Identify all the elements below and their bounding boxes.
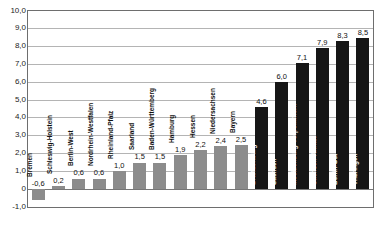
bar-category-label: Bayern — [229, 111, 237, 133]
y-axis-tick-label: 9,0 — [0, 23, 26, 32]
bar-value-label: 7,1 — [297, 53, 307, 62]
y-axis-tick-label: 7,0 — [0, 59, 26, 68]
bar-value-label: 8,5 — [358, 28, 368, 37]
bar-value-label: 0,2 — [53, 176, 63, 185]
bar-value-label: 6,0 — [276, 72, 286, 81]
bar-west — [153, 163, 166, 190]
bar-west — [52, 186, 65, 190]
bar-value-label: 2,5 — [236, 135, 246, 144]
bar-west — [133, 163, 146, 190]
bar-chart: 10,09,08,07,06,05,04,03,02,01,00-1,0 -0,… — [0, 0, 378, 228]
y-axis-tick-label: 4,0 — [0, 112, 26, 121]
bar-category-label: Bremen — [26, 153, 34, 177]
y-axis-tick-label: 3,0 — [0, 130, 26, 139]
bar-category-label: Rheinland-Pfalz — [107, 111, 115, 159]
y-axis-tick-label: 0 — [0, 184, 26, 193]
plot-area: -0,6Bremen0,2Schleswig-Holstein0,6Berlin… — [27, 10, 374, 208]
bar-value-label: 4,6 — [256, 97, 266, 106]
bar-west — [214, 146, 227, 189]
bar-value-label: 0,6 — [74, 168, 84, 177]
bar-value-label: 8,3 — [337, 31, 347, 40]
y-axis-tick-label: 10,0 — [0, 6, 26, 15]
bar-category-label: Berlin-Ost — [331, 154, 339, 185]
bar-category-label: Hessen — [189, 115, 197, 138]
y-axis-tick-label: 5,0 — [0, 95, 26, 104]
y-axis-tick-label: 6,0 — [0, 77, 26, 86]
bar-value-label: 7,9 — [317, 38, 327, 47]
bar-category-label: Mecklenburg-Vorpommern — [290, 104, 298, 185]
bar-category-label: Niedersachsen — [209, 89, 217, 135]
y-axis-tick-label: 2,0 — [0, 148, 26, 157]
bar-west — [194, 150, 207, 189]
bar-west — [174, 155, 187, 189]
bar-value-label: 1,5 — [134, 152, 144, 161]
bar-category-label: Nordrhein-Westfalen — [87, 103, 95, 166]
y-axis-tick-label: 1,0 — [0, 166, 26, 175]
bar-category-label: Thüringen — [351, 154, 359, 185]
bar-category-label: Baden-Württemberg — [148, 89, 156, 151]
bar-value-label: 1,5 — [155, 152, 165, 161]
bar-category-label: Hamburg — [168, 115, 176, 143]
bar-value-label: 1,9 — [175, 145, 185, 154]
bar-category-label: Berlin-West — [67, 131, 75, 167]
bar-value-label: 2,2 — [195, 140, 205, 149]
bar-category-label: Brandenburg — [249, 145, 257, 185]
bar-value-label: 2,4 — [216, 136, 226, 145]
bar-west — [93, 179, 106, 190]
bar-category-label: Schleswig-Holstein — [46, 115, 54, 174]
bar-value-label: 0,6 — [94, 168, 104, 177]
gridline — [28, 28, 373, 29]
bar-west — [235, 145, 248, 190]
bar-value-label: 1,0 — [114, 161, 124, 170]
y-axis-tick-label: 8,0 — [0, 41, 26, 50]
bar-category-label: Sachsen-Anhalt — [310, 136, 318, 185]
bar-value-label: -0,6 — [32, 179, 45, 188]
bar-category-label: Sachsen — [270, 159, 278, 185]
bar-west — [32, 189, 45, 200]
y-axis-tick-label: -1,0 — [0, 202, 26, 211]
bar-west — [72, 179, 85, 190]
bar-west — [113, 171, 126, 189]
bar-category-label: Saarland — [128, 123, 136, 150]
